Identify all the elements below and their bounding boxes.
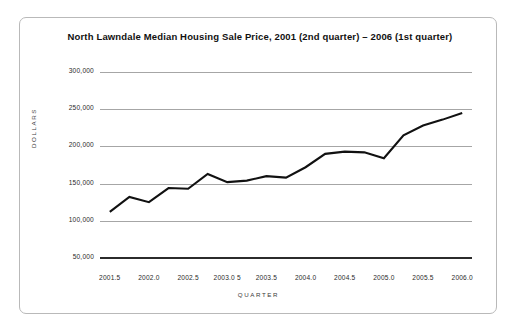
plot-area: 300,000250,000200,000150,000100,00050,00… [0, 0, 517, 331]
x-axis-label: QUARTER [0, 291, 517, 298]
data-series-line [0, 0, 517, 331]
chart-figure: North Lawndale Median Housing Sale Price… [0, 0, 517, 331]
y-axis-label: DOLLARS [30, 108, 37, 148]
